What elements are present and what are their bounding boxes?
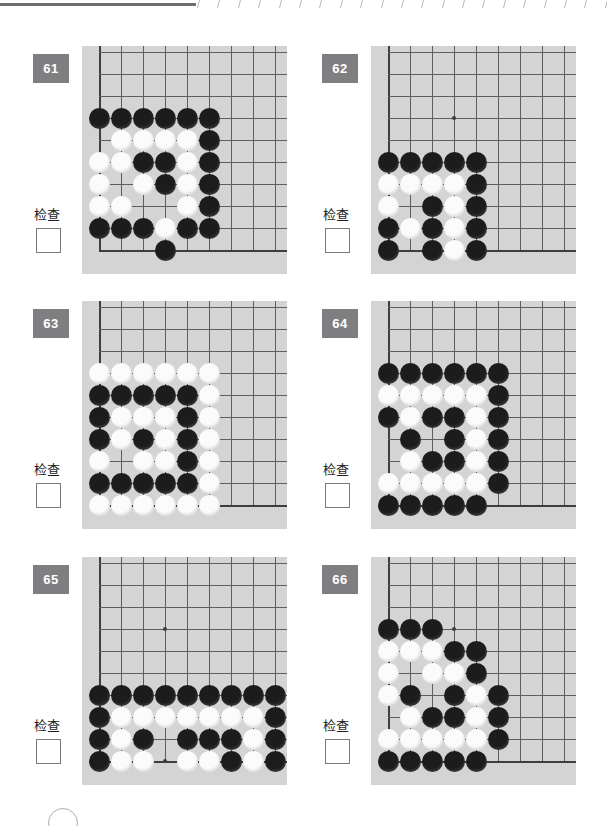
black-stone[interactable]: [378, 751, 399, 772]
white-stone[interactable]: [89, 363, 110, 384]
white-stone[interactable]: [199, 473, 220, 494]
black-stone[interactable]: [422, 196, 443, 217]
white-stone[interactable]: [243, 729, 264, 750]
white-stone[interactable]: [400, 407, 421, 428]
black-stone[interactable]: [444, 685, 465, 706]
white-stone[interactable]: [133, 407, 154, 428]
black-stone[interactable]: [177, 385, 198, 406]
white-stone[interactable]: [155, 130, 176, 151]
check-checkbox[interactable]: [325, 739, 350, 764]
white-stone[interactable]: [177, 751, 198, 772]
white-stone[interactable]: [400, 451, 421, 472]
black-stone[interactable]: [265, 729, 286, 750]
white-stone[interactable]: [199, 451, 220, 472]
go-board-65[interactable]: [82, 557, 287, 785]
black-stone[interactable]: [89, 751, 110, 772]
black-stone[interactable]: [422, 363, 443, 384]
black-stone[interactable]: [422, 707, 443, 728]
black-stone[interactable]: [177, 451, 198, 472]
black-stone[interactable]: [133, 218, 154, 239]
black-stone[interactable]: [89, 407, 110, 428]
white-stone[interactable]: [378, 385, 399, 406]
go-board-66[interactable]: [371, 557, 576, 785]
black-stone[interactable]: [265, 685, 286, 706]
white-stone[interactable]: [466, 729, 487, 750]
white-stone[interactable]: [221, 707, 242, 728]
white-stone[interactable]: [400, 174, 421, 195]
white-stone[interactable]: [133, 751, 154, 772]
black-stone[interactable]: [378, 152, 399, 173]
black-stone[interactable]: [265, 751, 286, 772]
black-stone[interactable]: [466, 240, 487, 261]
white-stone[interactable]: [466, 707, 487, 728]
white-stone[interactable]: [400, 641, 421, 662]
black-stone[interactable]: [444, 152, 465, 173]
black-stone[interactable]: [400, 152, 421, 173]
black-stone[interactable]: [466, 174, 487, 195]
white-stone[interactable]: [422, 729, 443, 750]
white-stone[interactable]: [422, 174, 443, 195]
black-stone[interactable]: [89, 108, 110, 129]
white-stone[interactable]: [155, 407, 176, 428]
black-stone[interactable]: [466, 363, 487, 384]
white-stone[interactable]: [444, 240, 465, 261]
go-board-64[interactable]: [371, 301, 576, 529]
white-stone[interactable]: [378, 641, 399, 662]
white-stone[interactable]: [466, 473, 487, 494]
black-stone[interactable]: [89, 685, 110, 706]
white-stone[interactable]: [111, 751, 132, 772]
white-stone[interactable]: [133, 174, 154, 195]
black-stone[interactable]: [422, 451, 443, 472]
black-stone[interactable]: [133, 152, 154, 173]
black-stone[interactable]: [444, 429, 465, 450]
black-stone[interactable]: [199, 130, 220, 151]
white-stone[interactable]: [155, 363, 176, 384]
white-stone[interactable]: [133, 707, 154, 728]
black-stone[interactable]: [466, 196, 487, 217]
black-stone[interactable]: [466, 495, 487, 516]
white-stone[interactable]: [155, 707, 176, 728]
white-stone[interactable]: [177, 174, 198, 195]
white-stone[interactable]: [422, 385, 443, 406]
black-stone[interactable]: [89, 473, 110, 494]
black-stone[interactable]: [488, 451, 509, 472]
white-stone[interactable]: [444, 218, 465, 239]
white-stone[interactable]: [444, 174, 465, 195]
go-board-61[interactable]: [82, 46, 287, 274]
white-stone[interactable]: [378, 174, 399, 195]
white-stone[interactable]: [466, 685, 487, 706]
white-stone[interactable]: [400, 707, 421, 728]
white-stone[interactable]: [400, 473, 421, 494]
white-stone[interactable]: [466, 407, 487, 428]
check-checkbox[interactable]: [325, 228, 350, 253]
black-stone[interactable]: [466, 751, 487, 772]
black-stone[interactable]: [422, 152, 443, 173]
white-stone[interactable]: [111, 152, 132, 173]
white-stone[interactable]: [89, 451, 110, 472]
white-stone[interactable]: [199, 385, 220, 406]
black-stone[interactable]: [155, 473, 176, 494]
white-stone[interactable]: [422, 641, 443, 662]
black-stone[interactable]: [199, 196, 220, 217]
white-stone[interactable]: [133, 451, 154, 472]
white-stone[interactable]: [378, 729, 399, 750]
black-stone[interactable]: [488, 729, 509, 750]
black-stone[interactable]: [177, 473, 198, 494]
black-stone[interactable]: [133, 429, 154, 450]
black-stone[interactable]: [111, 218, 132, 239]
white-stone[interactable]: [111, 729, 132, 750]
white-stone[interactable]: [177, 196, 198, 217]
black-stone[interactable]: [378, 363, 399, 384]
black-stone[interactable]: [378, 407, 399, 428]
black-stone[interactable]: [488, 473, 509, 494]
white-stone[interactable]: [177, 707, 198, 728]
check-checkbox[interactable]: [36, 739, 61, 764]
white-stone[interactable]: [400, 385, 421, 406]
white-stone[interactable]: [89, 196, 110, 217]
black-stone[interactable]: [177, 729, 198, 750]
black-stone[interactable]: [422, 407, 443, 428]
black-stone[interactable]: [155, 240, 176, 261]
black-stone[interactable]: [177, 685, 198, 706]
black-stone[interactable]: [199, 685, 220, 706]
black-stone[interactable]: [488, 385, 509, 406]
